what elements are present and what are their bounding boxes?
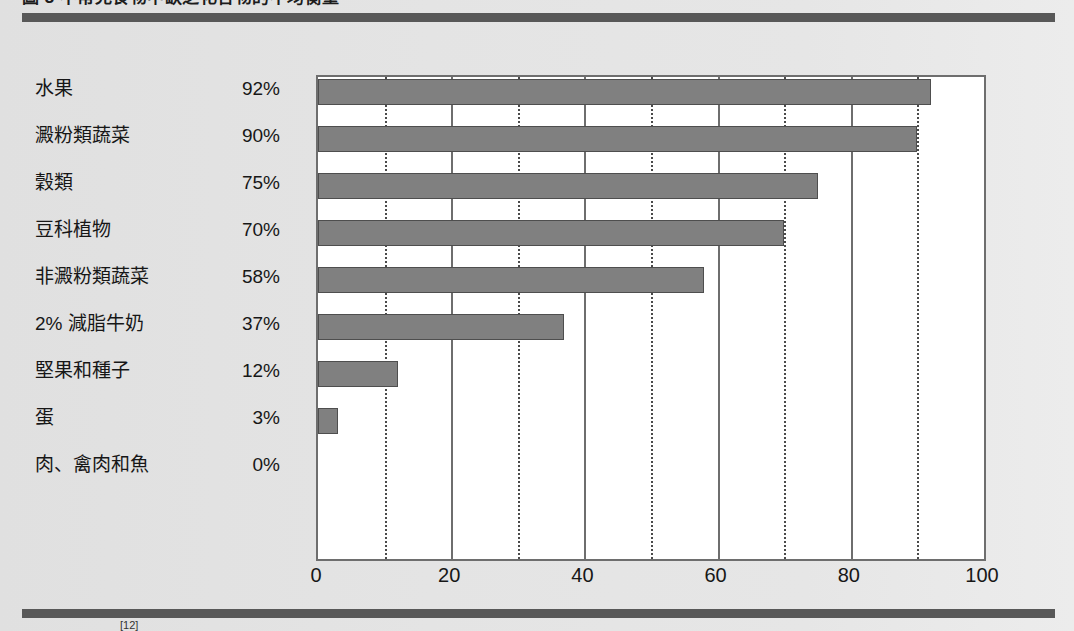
category-label: 澱粉類蔬菜 — [35, 123, 130, 149]
category-value-label: 3% — [195, 405, 280, 431]
category-row: 2% 減脂牛奶37% — [35, 311, 285, 337]
category-value-label: 75% — [195, 170, 280, 196]
x-tick-label: 20 — [419, 564, 479, 587]
bar-chart: 水果92%澱粉類蔬菜90%穀類75%豆科植物70%非澱粉類蔬菜58%2% 減脂牛… — [0, 30, 1074, 605]
category-label: 水果 — [35, 76, 73, 102]
category-label: 豆科植物 — [35, 217, 111, 243]
plot-area — [316, 75, 986, 561]
bar — [318, 79, 931, 105]
top-divider-rule — [22, 13, 1055, 22]
x-tick-label: 60 — [686, 564, 746, 587]
category-value-label: 70% — [195, 217, 280, 243]
category-value-label: 92% — [195, 76, 280, 102]
x-tick-label: 0 — [286, 564, 346, 587]
category-value-label: 58% — [195, 264, 280, 290]
bar — [318, 220, 784, 246]
category-row: 水果92% — [35, 76, 285, 102]
bar — [318, 361, 398, 387]
figure-page: 圖 3 不常見食物中缺乏化合物的不均衡量 水果92%澱粉類蔬菜90%穀類75%豆… — [0, 0, 1074, 631]
x-tick-label: 100 — [952, 564, 1012, 587]
category-row: 堅果和種子12% — [35, 358, 285, 384]
category-row: 蛋3% — [35, 405, 285, 431]
bar — [318, 126, 917, 152]
x-tick-label: 40 — [552, 564, 612, 587]
footnote-marker: [12] — [120, 619, 300, 631]
category-value-label: 12% — [195, 358, 280, 384]
category-label: 肉、禽肉和魚 — [35, 452, 149, 478]
category-value-label: 90% — [195, 123, 280, 149]
category-label: 非澱粉類蔬菜 — [35, 264, 149, 290]
bar — [318, 314, 564, 340]
bar — [318, 408, 338, 434]
x-axis-tick-labels: 020406080100 — [316, 564, 986, 598]
gridline-minor — [917, 77, 919, 559]
category-row: 澱粉類蔬菜90% — [35, 123, 285, 149]
category-label: 2% 減脂牛奶 — [35, 311, 144, 337]
category-label: 堅果和種子 — [35, 358, 130, 384]
category-row: 非澱粉類蔬菜58% — [35, 264, 285, 290]
category-row: 穀類75% — [35, 170, 285, 196]
category-label: 蛋 — [35, 405, 54, 431]
bar — [318, 267, 704, 293]
category-row: 肉、禽肉和魚0% — [35, 452, 285, 478]
category-label: 穀類 — [35, 170, 73, 196]
bottom-divider-rule — [22, 609, 1055, 618]
x-tick-label: 80 — [819, 564, 879, 587]
category-row: 豆科植物70% — [35, 217, 285, 243]
category-value-label: 37% — [195, 311, 280, 337]
plot-inner — [318, 77, 984, 559]
figure-caption: 圖 3 不常見食物中缺乏化合物的不均衡量 — [22, 0, 1042, 7]
category-value-label: 0% — [195, 452, 280, 478]
bar — [318, 173, 818, 199]
category-label-column: 水果92%澱粉類蔬菜90%穀類75%豆科植物70%非澱粉類蔬菜58%2% 減脂牛… — [0, 30, 300, 500]
